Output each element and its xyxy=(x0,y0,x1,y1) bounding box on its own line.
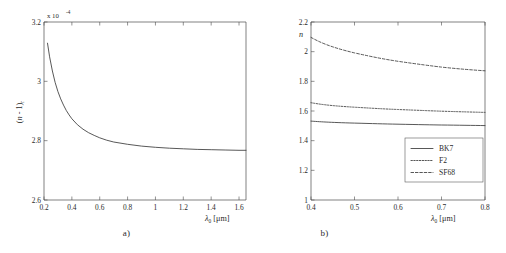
panel-b-xtick-4: 0.8 xyxy=(480,203,490,212)
chart-panel-b: 1 1.2 1.4 1.6 1.8 2 2.2 0.4 0.5 0. xyxy=(253,0,506,253)
svg-text:(n - 1)r: (n - 1)r xyxy=(15,101,25,123)
panel-b-y-axis-label: n xyxy=(299,30,303,39)
panel-a-xtick-4: 1 xyxy=(154,203,158,212)
svg-text:λ0 [μm]: λ0 [μm] xyxy=(204,214,230,224)
panel-a-xtick-1: 0.4 xyxy=(67,203,77,212)
legend-label-f2: F2 xyxy=(439,156,447,165)
panel-b-xtick-0: 0.4 xyxy=(306,203,316,212)
panel-b-xlabel-unit: [μm] xyxy=(439,214,455,223)
panel-a-multiplier-exponent: -4 xyxy=(66,9,71,15)
panel-b-legend[interactable]: BK7 F2 SF68 xyxy=(405,138,483,182)
panel-a-axes xyxy=(44,22,246,200)
panel-b-xtick-3: 0.7 xyxy=(437,203,447,212)
panel-a-ylabel-rest: - 1) xyxy=(15,102,24,116)
panel-b-series-bk7 xyxy=(311,121,485,126)
panel-a-plot: 2.6 2.8 3 3.2 xyxy=(0,0,253,253)
chart-panel-a: 2.6 2.8 3 3.2 xyxy=(0,0,253,253)
panel-b-xtick-1: 0.5 xyxy=(350,203,360,212)
panel-b-ytick-1: 1.2 xyxy=(299,166,309,175)
panel-b-y-ticks xyxy=(311,22,315,200)
panel-a-xtick-3: 0.8 xyxy=(123,203,133,212)
panel-a-xtick-0: 0.2 xyxy=(39,203,49,212)
panel-b-xtick-2: 0.6 xyxy=(393,203,403,212)
figure-container: 2.6 2.8 3 3.2 xyxy=(0,0,506,253)
panel-a-multiplier-text: x 10 xyxy=(47,12,59,19)
panel-a-y-ticks xyxy=(44,22,48,200)
panel-a-y-axis-label: (n - 1)r xyxy=(15,101,25,123)
panel-a-xtick-6: 1.4 xyxy=(207,203,217,212)
panel-b-caption: b) xyxy=(198,228,451,238)
panel-b-plot: 1 1.2 1.4 1.6 1.8 2 2.2 0.4 0.5 0. xyxy=(253,0,506,253)
legend-label-bk7: BK7 xyxy=(439,144,454,153)
panel-b-ytick-3: 1.6 xyxy=(299,107,309,116)
panel-a-y-multiplier: x 10 -4 xyxy=(47,9,71,19)
panel-a-ytick-3: 3.2 xyxy=(32,18,42,27)
panel-b-ytick-4: 1.8 xyxy=(299,77,309,86)
panel-b-x-axis-label: λ0 [μm] xyxy=(430,214,456,224)
panel-b-ytick-6: 2.2 xyxy=(299,18,309,27)
panel-a-xtick-5: 1.2 xyxy=(179,203,189,212)
panel-a-xtick-2: 0.6 xyxy=(95,203,105,212)
panel-a-xlabel-unit: [μm] xyxy=(213,214,229,223)
panel-a-ylabel-sub: r xyxy=(19,101,25,103)
svg-text:λ0 [μm]: λ0 [μm] xyxy=(430,214,456,224)
panel-a-xtick-7: 1.6 xyxy=(234,203,244,212)
panel-a-ytick-2: 3 xyxy=(37,77,41,86)
panel-a-ytick-1: 2.8 xyxy=(32,136,42,145)
legend-label-sf68: SF68 xyxy=(439,168,455,177)
panel-a-series-air xyxy=(48,43,247,150)
panel-b-series-sf68 xyxy=(311,37,485,70)
panel-b-series-f2 xyxy=(311,103,485,113)
panel-a-x-axis-label: λ0 [μm] xyxy=(204,214,230,224)
panel-b-ytick-5: 2 xyxy=(304,47,308,56)
panel-a-x-ticks xyxy=(44,22,239,200)
panel-b-ytick-2: 1.4 xyxy=(299,136,309,145)
